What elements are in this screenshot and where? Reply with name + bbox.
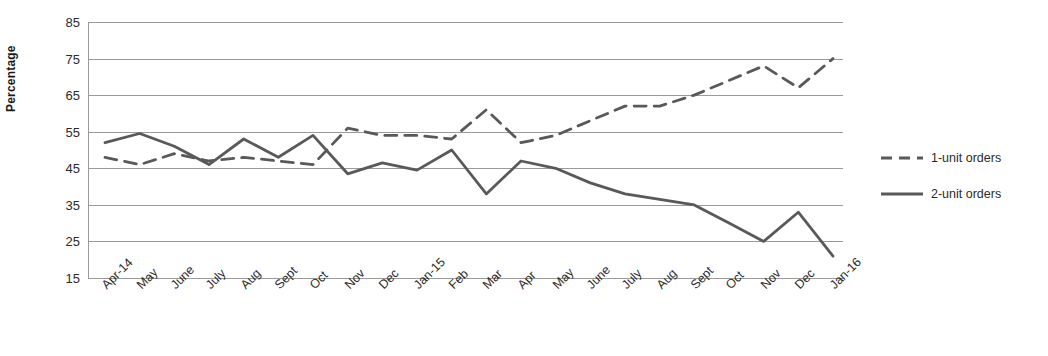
series-lines [88, 22, 843, 278]
y-tick-label-75: 75 [48, 51, 80, 66]
legend-item-2-unit-orders: 2-unit orders [880, 176, 1044, 212]
y-axis-tick-labels: 8575655545352515 [48, 0, 80, 356]
y-tick-label-35: 35 [48, 197, 80, 212]
y-tick-label-85: 85 [48, 15, 80, 30]
line-chart: Percentage 8575655545352515 Apr-14MayJun… [0, 0, 1048, 356]
dashed-line-swatch [880, 152, 924, 164]
plot-area [88, 22, 843, 278]
solid-line-swatch [880, 188, 924, 200]
y-tick-label-45: 45 [48, 161, 80, 176]
y-tick-label-25: 25 [48, 234, 80, 249]
legend-label-2-unit-orders: 2-unit orders [931, 187, 1001, 201]
y-tick-label-15: 15 [48, 271, 80, 286]
series-line-1-unit-orders [105, 59, 833, 165]
legend-item-1-unit-orders: 1-unit orders [880, 140, 1044, 176]
y-axis-title: Percentage [4, 45, 18, 112]
chart-legend: 1-unit orders 2-unit orders [880, 140, 1044, 212]
y-tick-label-65: 65 [48, 88, 80, 103]
series-line-2-unit-orders [105, 134, 833, 257]
x-axis-tick-labels: Apr-14MayJuneJulyAugSeptOctNovDecJan-15F… [88, 282, 843, 356]
legend-label-1-unit-orders: 1-unit orders [931, 151, 1001, 165]
y-tick-label-55: 55 [48, 124, 80, 139]
